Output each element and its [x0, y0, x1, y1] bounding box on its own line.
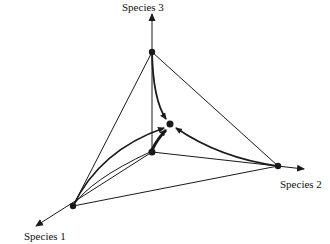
edge-3-1	[73, 52, 152, 206]
edge-1-2	[73, 166, 278, 206]
node-vertex-species-3	[149, 49, 155, 55]
label-species-2: Species 2	[280, 178, 322, 190]
phase-diagram: Species 3 Species 2 Species 1	[0, 0, 330, 244]
trajectory-from-origin	[152, 130, 166, 150]
trajectory-from-species-3	[152, 52, 166, 119]
node-vertex-species-2	[275, 163, 281, 169]
axes	[36, 14, 304, 226]
axis-species-1	[36, 152, 152, 226]
node-origin	[149, 149, 156, 156]
label-species-1: Species 1	[24, 230, 66, 242]
trajectory-from-species-1	[73, 128, 164, 206]
node-interior-equilibrium	[167, 121, 174, 128]
label-species-3: Species 3	[122, 1, 164, 13]
node-vertex-species-1	[70, 203, 76, 209]
